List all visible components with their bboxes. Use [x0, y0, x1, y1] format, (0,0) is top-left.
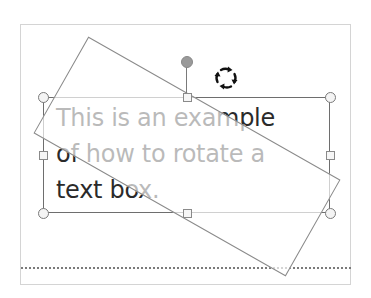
resize-handle-top[interactable]: [183, 93, 192, 102]
resize-handle-top-left[interactable]: [38, 92, 49, 103]
dotted-guide-line: [21, 267, 351, 269]
resize-handle-bottom-left[interactable]: [38, 208, 49, 219]
resize-handle-top-right[interactable]: [325, 92, 336, 103]
rotate-cursor-icon: [213, 65, 239, 91]
resize-handle-right[interactable]: [326, 151, 335, 160]
resize-handle-left[interactable]: [39, 151, 48, 160]
rotation-handle[interactable]: [181, 56, 193, 68]
resize-handle-bottom[interactable]: [183, 209, 192, 218]
resize-handle-bottom-right[interactable]: [325, 208, 336, 219]
